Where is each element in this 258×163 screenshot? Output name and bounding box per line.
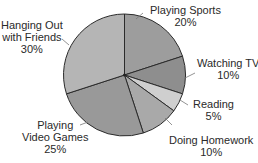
label-text: Hanging Out bbox=[1, 19, 63, 31]
label-watching-tv: Watching TV 10% bbox=[197, 57, 258, 81]
label-playing-video-games: Playing Video Games 25% bbox=[22, 119, 88, 155]
leader-line-tv bbox=[185, 73, 195, 78]
label-percent: 10% bbox=[197, 69, 258, 81]
label-percent: 20% bbox=[150, 16, 221, 28]
label-percent: 25% bbox=[22, 143, 88, 155]
leader-line-homework bbox=[165, 118, 172, 125]
label-text-2: with Friends bbox=[1, 31, 63, 43]
label-text: Watching TV bbox=[197, 57, 258, 69]
leader-line-friends bbox=[62, 39, 69, 45]
label-playing-sports: Playing Sports 20% bbox=[150, 4, 221, 28]
label-text: Playing Sports bbox=[150, 4, 221, 16]
label-percent: 10% bbox=[169, 146, 253, 158]
label-text: Doing Homework bbox=[169, 134, 253, 146]
label-percent: 5% bbox=[193, 110, 234, 122]
label-percent: 30% bbox=[1, 43, 63, 55]
label-hanging-out: Hanging Out with Friends 30% bbox=[1, 19, 63, 55]
label-reading: Reading 5% bbox=[193, 98, 234, 122]
pie-center-dot bbox=[123, 74, 126, 77]
label-text: Reading bbox=[193, 98, 234, 110]
label-text-2: Video Games bbox=[22, 131, 88, 143]
label-doing-homework: Doing Homework 10% bbox=[169, 134, 253, 158]
label-text: Playing bbox=[22, 119, 88, 131]
leader-line-reading bbox=[180, 100, 188, 105]
pie-slices bbox=[63, 14, 185, 136]
